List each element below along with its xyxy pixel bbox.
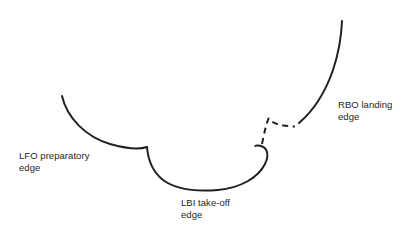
diagram-canvas: LFO preparatory edge LBI take-off edge R… <box>0 0 420 238</box>
lbi-take-off-edge-label: LBI take-off edge <box>181 197 230 221</box>
lfo-preparatory-edge-label: LFO preparatory edge <box>19 150 89 174</box>
rbo-landing-edge-path <box>299 21 342 123</box>
lfo-preparatory-edge-path <box>62 96 147 148</box>
lbi-take-off-edge-path <box>147 146 267 191</box>
connector-dashed-path <box>262 119 295 145</box>
rbo-landing-edge-label: RBO landing edge <box>338 99 392 123</box>
